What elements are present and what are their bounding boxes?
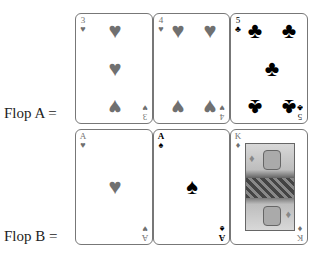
flop-a-label: Flop A = [4,105,57,122]
heart-icon: ♥ [198,20,222,42]
club-icon: ♣ [260,58,284,80]
diamond-icon: ♦ [285,208,291,220]
corner-index-top: 4 ♥ [156,16,166,34]
diamond-icon: ♦ [233,141,243,150]
club-icon: ♣ [295,103,305,112]
heart-icon: ♥ [78,25,88,34]
club-icon: ♣ [243,20,267,42]
heart-icon: ♥ [103,20,127,42]
heart-icon: ♥ [103,58,127,80]
card-4-hearts: 4 ♥ ♥ ♥ ♥ ♥ 4 ♥ [153,13,230,124]
king-head-bottom [263,206,281,226]
club-icon: ♣ [277,20,301,42]
corner-index-bottom: A ♥ [140,224,150,242]
card-king-diamonds: K ♦ ♦ ♦ K ♦ [230,129,308,245]
spade-icon: ♠ [156,141,166,150]
heart-icon: ♥ [166,20,190,42]
corner-index-top: A ♥ [78,132,88,150]
corner-index-bottom: 3 ♥ [140,103,150,121]
corner-index-bottom: 5 ♣ [295,103,305,121]
heart-icon: ♥ [156,25,166,34]
card-ace-spades: A ♠ ♠ A ♠ [153,129,230,245]
corner-index-top: 3 ♥ [78,16,88,34]
club-icon: ♣ [243,96,267,118]
flop-b-label: Flop B = [4,228,57,245]
corner-index-top: A ♠ [156,132,166,150]
heart-icon: ♥ [166,96,190,118]
corner-index-bottom: K ♦ [295,224,305,242]
diamond-icon: ♦ [295,224,305,233]
corner-index-top: 5 ♣ [233,16,243,34]
king-head-top [263,150,281,170]
heart-icon: ♥ [140,224,150,233]
spade-icon: ♠ [180,176,204,198]
king-face-artwork: ♦ ♦ [245,143,295,231]
diamond-icon: ♦ [249,152,255,164]
card-3-hearts: 3 ♥ ♥ ♥ ♥ 3 ♥ [75,13,153,124]
heart-icon: ♥ [103,176,127,198]
card-ace-hearts: A ♥ ♥ A ♥ [75,129,153,245]
heart-icon: ♥ [78,141,88,150]
corner-index-top: K ♦ [233,132,243,150]
heart-icon: ♥ [103,96,127,118]
corner-index-bottom: A ♠ [217,224,227,242]
spade-icon: ♠ [217,224,227,233]
card-5-clubs: 5 ♣ ♣ ♣ ♣ ♣ ♣ 5 ♣ [230,13,308,124]
heart-icon: ♥ [217,103,227,112]
heart-icon: ♥ [140,103,150,112]
club-icon: ♣ [233,25,243,34]
corner-index-bottom: 4 ♥ [217,103,227,121]
king-robe-pattern [246,178,294,198]
